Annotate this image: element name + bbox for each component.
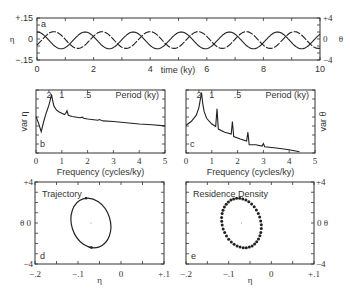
y-axis-label: var η — [19, 111, 29, 131]
density-point — [230, 241, 233, 244]
x-tick-label: 4 — [137, 156, 142, 166]
density-point — [220, 220, 223, 223]
density-point — [248, 246, 251, 249]
x-tick-label: 0 — [34, 64, 39, 74]
panel-label: a — [41, 19, 46, 29]
y-left-tick-label: 0 — [28, 34, 33, 44]
panel-label: b — [40, 139, 45, 149]
density-point — [257, 238, 260, 241]
y-right-tick-label: +4 — [323, 13, 333, 23]
y-right-tick-label: −4 — [323, 55, 333, 65]
density-point — [236, 245, 239, 248]
x-tick-label: +.1 — [158, 269, 170, 279]
x-tick-label: 2 — [85, 156, 90, 166]
panel-label: c — [190, 139, 195, 149]
panel-title: Residence Density — [193, 189, 269, 199]
density-point — [260, 223, 263, 226]
x-tick-label: 0 — [269, 269, 274, 279]
x-tick-label: 1 — [210, 156, 215, 166]
x-tick-label: 5 — [163, 156, 168, 166]
y-tick-label: −4 — [23, 259, 33, 269]
figure: 0246810−.150+.15−40+4ηθatime (ky)012345F… — [0, 0, 350, 295]
center-dot — [90, 222, 91, 223]
x-axis-label: η — [248, 275, 253, 285]
panel-a-frame — [37, 18, 320, 60]
density-point — [239, 246, 242, 249]
x-tick-label: 3 — [111, 156, 116, 166]
density-point — [229, 199, 232, 202]
panel-label: d — [40, 251, 45, 261]
center-dot — [241, 222, 242, 223]
density-point — [251, 244, 254, 247]
period-axis-label: Period (ky) — [265, 90, 309, 100]
density-point — [247, 200, 250, 203]
x-tick-label: 4 — [287, 156, 292, 166]
density-point — [222, 209, 225, 212]
density-point — [259, 231, 262, 234]
x-tick-label: −.1 — [72, 269, 84, 279]
panel-a: 0246810−.150+.15−40+4ηθatime (ky) — [10, 13, 344, 75]
density-point — [260, 227, 263, 230]
x-axis-label: time (ky) — [161, 65, 196, 75]
panel-label: e — [191, 251, 196, 261]
density-point — [259, 219, 262, 222]
density-point — [221, 224, 224, 227]
density-point — [258, 234, 261, 237]
density-point — [253, 243, 256, 246]
x-tick-label: 5 — [313, 156, 318, 166]
x-axis-label: Frequency (cycles/ky) — [57, 167, 145, 177]
x-tick-label: 0 — [184, 156, 189, 166]
density-point — [223, 206, 226, 209]
y-axis-label: var θ — [318, 111, 328, 131]
x-tick-label: 1 — [60, 156, 65, 166]
y-tick-label: −4 — [316, 259, 326, 269]
y-left-tick-label: −.15 — [15, 55, 33, 65]
density-point — [257, 212, 260, 215]
x-tick-label: 2 — [91, 64, 96, 74]
x-tick-label: −.2 — [29, 269, 41, 279]
x-tick-label: 0 — [34, 156, 39, 166]
density-point — [227, 200, 230, 203]
density-point — [222, 227, 225, 230]
density-point — [221, 212, 224, 215]
density-point — [225, 203, 228, 206]
density-point — [255, 240, 258, 243]
x-tick-label: 8 — [261, 64, 266, 74]
x-tick-label: +.1 — [308, 269, 320, 279]
x-tick-label: −.1 — [223, 269, 235, 279]
x-tick-label: 0 — [119, 269, 124, 279]
x-tick-label: 6 — [204, 64, 209, 74]
trajectory-marker — [85, 197, 88, 200]
panel-c: 012345Frequency (cycles/ky)21.5Period (k… — [184, 90, 328, 177]
panel-title: Trajectory — [42, 189, 82, 199]
period-axis-label: Period (ky) — [115, 90, 159, 100]
y-axis-label: θ 0 — [20, 218, 32, 228]
y-right-axis-label: θ — [339, 34, 343, 44]
density-point — [225, 235, 228, 238]
x-tick-label: 10 — [315, 64, 325, 74]
x-tick-label: 4 — [148, 64, 153, 74]
density-point — [255, 208, 258, 211]
spectrum-line — [186, 93, 300, 152]
panel-e: −.2−.10+.1η−4+40 θResidence Densitye — [180, 177, 328, 285]
density-point — [223, 231, 226, 234]
density-point — [258, 216, 261, 219]
x-tick-label: −.2 — [180, 269, 192, 279]
density-point — [245, 246, 248, 249]
y-left-axis-label: η — [10, 34, 15, 44]
y-left-tick-label: +.15 — [15, 13, 33, 23]
x-tick-label: 2 — [235, 156, 240, 166]
series-eta-line — [37, 32, 320, 49]
y-right-tick-label: 0 — [323, 34, 328, 44]
density-point — [253, 205, 256, 208]
y-tick-label: +4 — [23, 177, 33, 187]
y-axis-label: 0 θ — [317, 218, 328, 228]
panel-d: −.2−.10+.1η−4+4θ 0Trajectoryd — [20, 177, 170, 285]
x-axis-label: Frequency (cycles/ky) — [207, 167, 295, 177]
density-point — [220, 216, 223, 219]
density-point — [242, 246, 245, 249]
density-point — [233, 243, 236, 246]
panel-b: 012345Frequency (cycles/ky)21.5Period (k… — [19, 90, 168, 177]
x-tick-label: 3 — [261, 156, 266, 166]
x-axis-label: η — [97, 275, 102, 285]
